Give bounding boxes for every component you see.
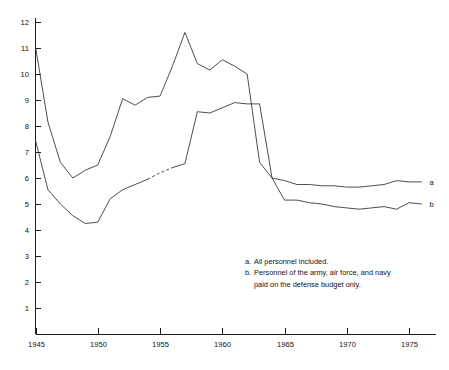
- x-tick-label-1965: 1965: [277, 340, 294, 349]
- series-a-line: [36, 32, 422, 187]
- y-tick-label-5: 5: [25, 200, 29, 209]
- footnote-marker: a.: [245, 256, 254, 267]
- y-axis-tick-labels: 123456789101112: [21, 18, 29, 313]
- footnotes-block: a.All personnel included.b.Personnel of …: [245, 256, 445, 290]
- x-axis-tick-labels: 1945195019551960196519701975: [28, 340, 418, 349]
- y-tick-label-1: 1: [25, 304, 29, 313]
- y-tick-label-12: 12: [21, 18, 29, 27]
- y-tick-label-7: 7: [25, 148, 29, 157]
- x-tick-label-1960: 1960: [214, 340, 231, 349]
- y-tick-label-3: 3: [25, 252, 29, 261]
- line-chart-plot: 123456789101112 194519501955196019651970…: [0, 0, 449, 370]
- footnote-text-continued: paid on the defense budget only.: [245, 279, 445, 290]
- footnote-marker: b.: [245, 267, 254, 278]
- y-tick-label-8: 8: [25, 122, 29, 131]
- y-axis: 123456789101112: [21, 18, 41, 334]
- series-end-label-b: b: [429, 200, 433, 209]
- y-tick-label-2: 2: [25, 278, 29, 287]
- series-b-solid-start: [36, 140, 148, 223]
- data-series-group: [36, 32, 422, 223]
- y-tick-label-10: 10: [21, 70, 29, 79]
- x-tick-label-1945: 1945: [28, 340, 45, 349]
- series-b-solid-end: [172, 103, 421, 210]
- x-tick-label-1955: 1955: [152, 340, 169, 349]
- series-b-dashed-gap: [148, 168, 173, 180]
- series-end-label-a: a: [429, 178, 434, 187]
- x-tick-label-1975: 1975: [401, 340, 418, 349]
- footnote-text: All personnel included.: [254, 257, 328, 266]
- footnote-text: Personnel of the army, air force, and na…: [254, 268, 391, 277]
- x-tick-label-1970: 1970: [339, 340, 356, 349]
- footnote-a: a.All personnel included.: [245, 256, 445, 267]
- y-tick-label-11: 11: [21, 44, 29, 53]
- chart-container: 123456789101112 194519501955196019651970…: [0, 0, 449, 370]
- x-axis: 1945195019551960196519701975: [28, 328, 436, 349]
- footnote-b: b.Personnel of the army, air force, and …: [245, 267, 445, 278]
- x-tick-label-1950: 1950: [90, 340, 107, 349]
- series-end-labels: ab: [429, 178, 434, 209]
- y-tick-label-6: 6: [25, 174, 29, 183]
- y-tick-label-4: 4: [25, 226, 29, 235]
- y-tick-label-9: 9: [25, 96, 29, 105]
- x-axis-ticks: [37, 328, 410, 335]
